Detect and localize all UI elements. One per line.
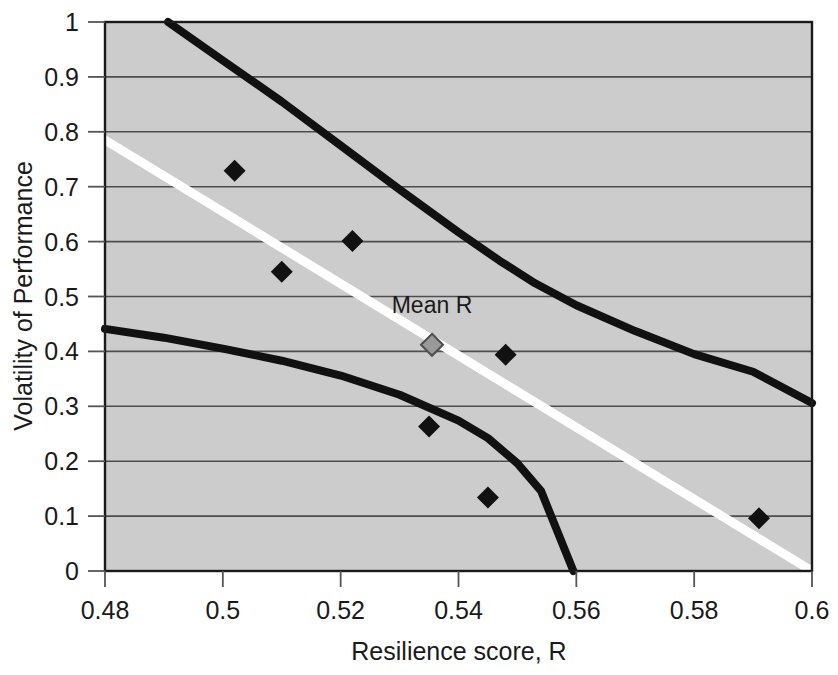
y-tick-label: 0.9 — [44, 63, 79, 91]
x-tick-label: 0.56 — [552, 596, 601, 624]
y-tick-label: 0.6 — [44, 228, 79, 256]
y-axis-title: Volatility of Performance — [9, 161, 37, 431]
x-axis-title: Resilience score, R — [351, 637, 566, 665]
y-tick-label: 0.2 — [44, 447, 79, 475]
x-tick-labels: 0.480.50.520.540.560.580.6 — [81, 596, 830, 624]
x-tick-label: 0.58 — [670, 596, 719, 624]
y-tick-label: 0.4 — [44, 337, 79, 365]
y-tick-labels: 00.10.20.30.40.50.60.70.80.91 — [44, 8, 79, 585]
mean-r-label: Mean R — [392, 292, 473, 318]
chart-annotations: Mean R — [392, 292, 473, 318]
y-tick-label: 0.3 — [44, 392, 79, 420]
x-tick-label: 0.6 — [795, 596, 830, 624]
y-tick-label: 0 — [65, 557, 79, 585]
y-tick-label: 0.5 — [44, 283, 79, 311]
x-tick-label: 0.48 — [81, 596, 130, 624]
x-tick-label: 0.5 — [205, 596, 240, 624]
chart-figure: 0.480.50.520.540.560.580.6 00.10.20.30.4… — [0, 0, 838, 675]
scatter-chart: 0.480.50.520.540.560.580.6 00.10.20.30.4… — [0, 0, 838, 675]
y-tick-label: 0.1 — [44, 502, 79, 530]
x-tick-label: 0.54 — [434, 596, 483, 624]
y-tick-label: 1 — [65, 8, 79, 36]
y-tick-label: 0.8 — [44, 118, 79, 146]
x-tick-label: 0.52 — [316, 596, 365, 624]
y-tick-label: 0.7 — [44, 173, 79, 201]
